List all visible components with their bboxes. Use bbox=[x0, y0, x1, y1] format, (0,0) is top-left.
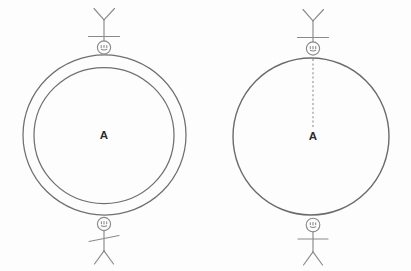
observer-top-right bbox=[298, 10, 329, 56]
diagram-canvas: A bbox=[0, 0, 411, 271]
observer-leg-left bbox=[94, 9, 104, 20]
observer-bottom-right bbox=[298, 218, 328, 265]
center-label-left: A bbox=[100, 129, 108, 141]
observer-leg-right bbox=[313, 10, 324, 21]
center-label-right: A bbox=[309, 130, 317, 142]
observer-leg-right bbox=[104, 251, 114, 264]
observer-leg-right bbox=[104, 9, 115, 20]
observer-top-left bbox=[89, 9, 120, 55]
annulus-panel: A bbox=[23, 9, 186, 265]
observer-bottom-left bbox=[89, 217, 119, 264]
observer-mouth-icon bbox=[310, 50, 315, 51]
observer-leg-left bbox=[304, 252, 314, 265]
single-circle-panel: A bbox=[233, 10, 389, 266]
observer-leg-right bbox=[313, 252, 323, 265]
diagram-svg: A bbox=[0, 0, 411, 271]
observer-leg-left bbox=[95, 251, 105, 264]
observer-leg-left bbox=[303, 10, 313, 21]
observer-mouth-icon bbox=[101, 49, 107, 50]
